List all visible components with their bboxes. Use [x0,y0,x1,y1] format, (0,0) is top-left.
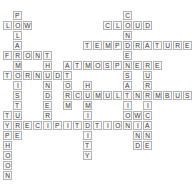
crossword-cell[interactable]: M [83,101,92,110]
crossword-cell[interactable]: U [13,111,22,120]
crossword-cell[interactable]: I [13,81,22,90]
crossword-cell[interactable]: I [83,131,92,140]
crossword-cell[interactable]: I [63,121,72,130]
crossword-cell[interactable]: T [123,91,132,100]
crossword-cell[interactable]: S [183,91,192,100]
crossword-cell[interactable]: E [13,131,22,140]
crossword-cell[interactable]: C [103,21,112,30]
crossword-cell[interactable]: T [153,41,162,50]
crossword-cell[interactable]: I [83,111,92,120]
crossword-cell[interactable]: C [143,111,152,120]
crossword-cell[interactable]: N [43,81,52,90]
crossword-cell[interactable]: I [133,121,142,130]
crossword-cell[interactable]: Y [83,151,92,160]
crossword-cell[interactable]: N [33,51,42,60]
crossword-cell[interactable]: M [13,61,22,70]
crossword-cell[interactable]: E [123,51,132,60]
crossword-cell[interactable]: L [13,31,22,40]
crossword-cell[interactable]: O [23,51,32,60]
crossword-cell[interactable]: U [173,91,182,100]
crossword-cell[interactable]: U [163,41,172,50]
crossword-cell[interactable]: D [123,41,132,50]
crossword-cell[interactable]: T [73,61,82,70]
crossword-cell[interactable]: U [103,91,112,100]
crossword-cell[interactable]: N [3,171,12,180]
crossword-cell[interactable]: A [13,41,22,50]
crossword-cell[interactable]: N [123,61,132,70]
crossword-cell[interactable]: M [83,61,92,70]
crossword-cell[interactable]: N [133,91,142,100]
crossword-cell[interactable]: F [3,51,12,60]
crossword-cell[interactable]: T [93,121,102,130]
crossword-cell[interactable]: A [63,61,72,70]
crossword-cell[interactable]: S [13,91,22,100]
crossword-cell[interactable]: C [73,91,82,100]
crossword-cell[interactable]: R [43,111,52,120]
crossword-cell[interactable]: H [3,141,12,150]
crossword-cell[interactable]: L [3,21,12,30]
crossword-cell[interactable]: I [43,121,52,130]
crossword-cell[interactable]: L [113,91,122,100]
crossword-cell[interactable]: D [43,91,52,100]
crossword-cell[interactable]: M [63,101,72,110]
crossword-cell[interactable]: O [113,121,122,130]
crossword-cell[interactable]: O [3,151,12,160]
crossword-cell[interactable]: W [23,21,32,30]
crossword-cell[interactable]: R [143,81,152,90]
crossword-cell[interactable]: T [83,141,92,150]
crossword-cell[interactable]: N [133,131,142,140]
crossword-cell[interactable]: T [63,71,72,80]
crossword-cell[interactable]: Y [3,121,12,130]
crossword-cell[interactable]: T [83,41,92,50]
crossword-cell[interactable]: E [93,41,102,50]
crossword-cell[interactable]: R [63,91,72,100]
crossword-cell[interactable]: H [83,81,92,90]
crossword-cell[interactable]: E [183,41,192,50]
crossword-cell[interactable]: N [123,31,132,40]
crossword-cell[interactable]: P [113,61,122,70]
crossword-cell[interactable]: P [13,11,22,20]
crossword-cell[interactable]: T [3,111,12,120]
crossword-cell[interactable]: W [133,111,142,120]
crossword-cell[interactable]: O [123,111,132,120]
crossword-cell[interactable]: E [143,141,152,150]
crossword-cell[interactable]: H [43,61,52,70]
crossword-cell[interactable]: D [133,141,142,150]
crossword-cell[interactable]: T [73,121,82,130]
crossword-cell[interactable]: D [83,121,92,130]
crossword-cell[interactable]: N [33,71,42,80]
crossword-cell[interactable]: O [93,61,102,70]
crossword-cell[interactable]: N [123,121,132,130]
crossword-cell[interactable]: A [143,121,152,130]
crossword-cell[interactable]: R [13,51,22,60]
crossword-cell[interactable]: C [123,11,132,20]
crossword-cell[interactable]: R [13,121,22,130]
crossword-cell[interactable]: U [133,21,142,30]
crossword-cell[interactable]: O [63,81,72,90]
crossword-cell[interactable]: T [3,71,12,80]
crossword-cell[interactable]: C [33,121,42,130]
crossword-cell[interactable]: A [143,41,152,50]
crossword-cell[interactable]: T [43,51,52,60]
crossword-cell[interactable]: R [133,41,142,50]
crossword-cell[interactable]: E [153,61,162,70]
crossword-cell[interactable]: O [123,21,132,30]
crossword-cell[interactable]: D [53,71,62,80]
crossword-cell[interactable]: I [143,101,152,110]
crossword-cell[interactable]: E [43,101,52,110]
crossword-cell[interactable]: M [103,41,112,50]
crossword-cell[interactable]: R [143,91,152,100]
crossword-cell[interactable]: U [143,71,152,80]
crossword-cell[interactable]: N [143,131,152,140]
crossword-cell[interactable]: P [113,41,122,50]
crossword-cell[interactable]: L [113,21,122,30]
crossword-cell[interactable]: O [3,161,12,170]
crossword-cell[interactable]: S [103,61,112,70]
crossword-cell[interactable]: A [123,81,132,90]
crossword-cell[interactable]: M [153,91,162,100]
crossword-cell[interactable]: O [13,71,22,80]
crossword-cell[interactable]: I [103,121,112,130]
crossword-cell[interactable]: U [43,71,52,80]
crossword-cell[interactable]: I [123,101,132,110]
crossword-cell[interactable]: D [143,21,152,30]
